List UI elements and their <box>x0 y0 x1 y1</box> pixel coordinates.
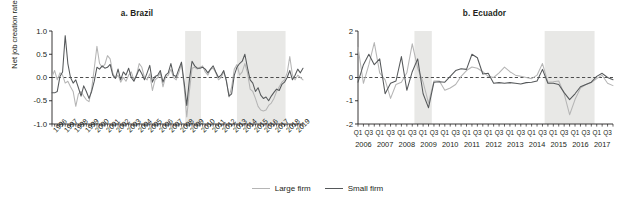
y-axis-label-brazil: Net job creation rate <box>10 0 19 83</box>
legend-label-small-firm: Small firm <box>348 184 384 193</box>
legend-label-large-firm: Large firm <box>275 184 311 193</box>
x-year-label-ecuador: 2011 <box>460 140 484 149</box>
y-tick-label: -1.0 <box>34 120 48 129</box>
recession-band <box>545 31 595 124</box>
figure-legend: Large firm Small firm <box>0 184 635 193</box>
legend-swatch-large-firm <box>252 188 270 189</box>
panel-brazil-title: a. Brazil <box>0 9 296 18</box>
x-year-label-ecuador: 2007 <box>373 140 397 149</box>
x-year-label-ecuador: 2008 <box>395 140 419 149</box>
x-year-label-ecuador: 2013 <box>503 140 527 149</box>
panel-ecuador-title: b. Ecuador <box>326 9 635 18</box>
figure-net-job-creation-rate: a. Brazil Net job creation rate 1.00.50.… <box>0 0 635 199</box>
y-tick-label: 1 <box>349 50 353 59</box>
legend-item-small-firm: Small firm <box>325 184 384 193</box>
legend-item-large-firm: Large firm <box>252 184 311 193</box>
x-year-label-ecuador: 2012 <box>482 140 506 149</box>
x-year-label-ecuador: 2016 <box>568 140 592 149</box>
y-tick-label: -1 <box>346 96 353 105</box>
x-year-label-ecuador: 2017 <box>590 140 614 149</box>
x-year-label-ecuador: 2006 <box>351 140 375 149</box>
x-quarter-label-ecuador: Q3 <box>601 129 615 136</box>
y-tick-label: 0.0 <box>36 73 48 82</box>
x-year-label-ecuador: 2010 <box>438 140 462 149</box>
legend-swatch-small-firm <box>325 188 343 189</box>
panel-ecuador: b. Ecuador 210-1-2 Q1Q3Q1Q3Q1Q3Q1Q3Q1Q3Q… <box>318 0 635 170</box>
y-tick-label: 0 <box>349 73 354 82</box>
y-tick-label: 2 <box>349 27 353 36</box>
y-tick-label: -0.5 <box>34 96 48 105</box>
y-tick-label: -2 <box>346 120 353 129</box>
panel-brazil: a. Brazil Net job creation rate 1.00.50.… <box>0 0 318 170</box>
y-tick-label: 1.0 <box>36 27 48 36</box>
y-tick-label: 0.5 <box>36 50 48 59</box>
plot-area-brazil: 1.00.50.0-0.5-1.0 <box>0 0 318 170</box>
x-year-label-ecuador: 2015 <box>547 140 571 149</box>
x-year-label-ecuador: 2009 <box>417 140 441 149</box>
x-year-label-ecuador: 2014 <box>525 140 549 149</box>
